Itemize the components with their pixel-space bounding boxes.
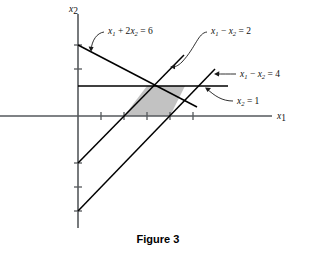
feasible-region-shading bbox=[124, 86, 185, 116]
y-axis-label-sub: 2 bbox=[73, 6, 78, 16]
label-constraint-x1-minus-x2-eq-2: x1 − x2 = 2 bbox=[210, 26, 251, 37]
l3-p5: = 4 bbox=[265, 69, 280, 79]
leader-line-4 bbox=[207, 89, 233, 101]
y-axis-label: x2 bbox=[68, 4, 78, 16]
l1-p2: + 2 bbox=[116, 26, 131, 36]
figure-caption: Figure 3 bbox=[137, 233, 180, 245]
leader-arrowhead-3 bbox=[214, 71, 219, 76]
l2-p2: − bbox=[219, 26, 229, 36]
label-constraint-x1-minus-x2-eq-4: x1 − x2 = 4 bbox=[239, 69, 280, 80]
x-axis-label: x1 bbox=[276, 111, 286, 123]
l2-p5: = 2 bbox=[236, 26, 251, 36]
x-axis-label-sub: 1 bbox=[281, 113, 286, 123]
l3-p2: − bbox=[248, 69, 258, 79]
l4-p2: = 1 bbox=[245, 96, 260, 106]
linear-programming-plot: x2 x1 x1 + 2x2 = 6 x1 − x2 = 2 x1 − x2 =… bbox=[0, 0, 316, 260]
constraint-line-x1-plus-2x2-eq-6 bbox=[78, 45, 197, 107]
label-constraint-x2-eq-1: x2 = 1 bbox=[236, 96, 260, 107]
figure-3-container: x2 x1 x1 + 2x2 = 6 x1 − x2 = 2 x1 − x2 =… bbox=[0, 0, 316, 260]
l1-p5: = 6 bbox=[138, 26, 153, 36]
label-constraint-x1-plus-2x2-eq-6: x1 + 2x2 = 6 bbox=[107, 26, 153, 37]
